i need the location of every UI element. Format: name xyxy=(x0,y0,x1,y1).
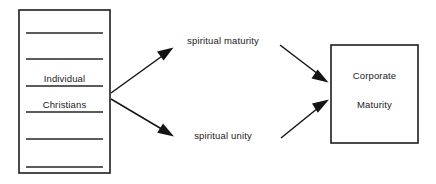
diagram-root: Individual Christians spiritual maturity… xyxy=(0,0,436,184)
spiritual-unity-label: spiritual unity xyxy=(194,130,252,141)
corporate-maturity-box: Corporate Maturity xyxy=(331,45,418,143)
maturity-label: Maturity xyxy=(357,99,392,110)
corporate-label: Corporate xyxy=(353,70,397,81)
edge-source-to-spiritual-maturity xyxy=(111,48,174,94)
individual-label: Individual xyxy=(44,73,86,84)
edge-spiritual-maturity-to-corporate xyxy=(280,45,329,83)
individual-christians-box-outline xyxy=(19,10,110,173)
spiritual-maturity-label: spiritual maturity xyxy=(187,35,259,46)
edge-source-to-spiritual-maturity-line xyxy=(111,54,165,93)
edge-spiritual-unity-to-corporate xyxy=(281,100,329,139)
edge-source-to-spiritual-unity xyxy=(111,99,174,137)
corporate-maturity-box-outline xyxy=(331,45,418,143)
individual-christians-box: Individual Christians xyxy=(19,10,110,173)
christians-label: Christians xyxy=(43,99,87,110)
edge-source-to-spiritual-unity-arrowhead xyxy=(157,124,174,137)
edge-spiritual-maturity-to-corporate-line xyxy=(280,45,318,74)
diagram-canvas: Individual Christians spiritual maturity… xyxy=(0,0,436,184)
edge-source-to-spiritual-unity-line xyxy=(111,99,165,131)
edge-spiritual-unity-to-corporate-line xyxy=(281,108,318,138)
